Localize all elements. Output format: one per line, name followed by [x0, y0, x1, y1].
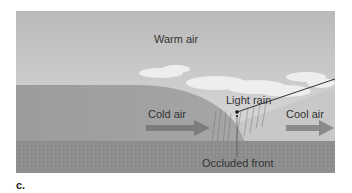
light-rain-label: Light rain [226, 94, 271, 106]
warm-air-label: Warm air [154, 33, 198, 45]
ground [16, 141, 335, 173]
cold-air-label: Cold air [148, 108, 186, 120]
cool-air-label: Cool air [286, 108, 324, 120]
occlusion-point [235, 110, 239, 114]
occluded-front-label: Occluded front [202, 157, 274, 169]
panel-label: c. [16, 179, 25, 191]
occluded-front-diagram: Warm air Light rain Cold air Cool air Oc… [16, 11, 335, 173]
